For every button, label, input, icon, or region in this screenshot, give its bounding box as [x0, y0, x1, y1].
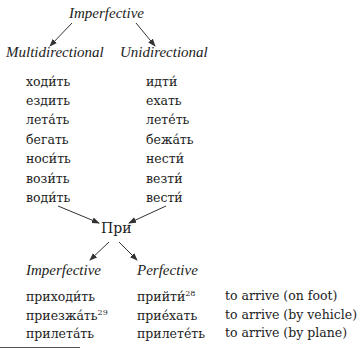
verb-item: ехать	[146, 95, 182, 108]
arrow-multi-to-pri	[58, 206, 99, 223]
verb-item: носи́ть	[26, 153, 71, 166]
heading-imperfective: Imperfective	[69, 6, 144, 21]
meaning: to arrive (by vehicle)	[225, 309, 357, 322]
label-perfective: Perfective	[137, 263, 198, 278]
verb-item: бегать	[26, 134, 69, 147]
label-imperfective: Imperfective	[26, 263, 101, 278]
verb-item: бежа́ть	[146, 134, 194, 147]
imperfective-verb: приезжа́ть29	[26, 309, 108, 323]
arrow-to-multidirectional	[50, 23, 72, 46]
label-unidirectional: Unidirectional	[120, 45, 208, 60]
arrow-to-unidirectional	[136, 23, 155, 46]
verb-item: вози́ть	[26, 173, 69, 186]
perfective-verb: прийти́28	[137, 290, 195, 304]
footnote-ref[interactable]: 29	[98, 308, 108, 317]
arrow-uni-to-pri	[129, 206, 166, 223]
verb-item: ходи́ть	[26, 76, 70, 89]
verb-item: идти́	[146, 76, 177, 89]
perfective-verb: прилете́ть	[137, 327, 205, 341]
perfective-verb: прие́хать	[137, 309, 197, 323]
verb-item: лета́ть	[26, 114, 69, 127]
footnote-rule	[0, 347, 80, 348]
imperfective-verb: прилета́ть	[26, 327, 94, 341]
verb-item: нести́	[146, 153, 184, 166]
footnote-ref[interactable]: 28	[185, 289, 195, 298]
verb-item: лете́ть	[146, 114, 189, 127]
arrow-to-imperfective	[90, 242, 109, 260]
prefix-pri: При	[101, 221, 132, 235]
imperfective-verb: приходи́ть	[26, 290, 95, 304]
verb-item: вести́	[146, 192, 183, 205]
meaning: to arrive (on foot)	[225, 290, 337, 303]
verb-item: ездить	[26, 95, 70, 108]
label-multidirectional: Multidirectional	[6, 45, 104, 60]
verb-item: води́ть	[26, 192, 70, 205]
meaning: to arrive (by plane)	[225, 327, 347, 340]
arrow-to-perfective	[119, 242, 137, 260]
verb-item: везти́	[146, 173, 183, 186]
